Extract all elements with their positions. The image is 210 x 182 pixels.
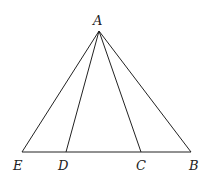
segment-ab <box>99 31 191 152</box>
segment-ae <box>22 31 99 152</box>
label-d: D <box>57 158 69 173</box>
label-e: E <box>12 158 23 173</box>
label-a: A <box>92 13 102 28</box>
label-b: B <box>188 158 199 173</box>
label-c: C <box>136 158 146 173</box>
segment-ac <box>99 31 141 152</box>
segment-ad <box>66 31 99 152</box>
triangle-diagram: A E D C B <box>0 0 210 182</box>
